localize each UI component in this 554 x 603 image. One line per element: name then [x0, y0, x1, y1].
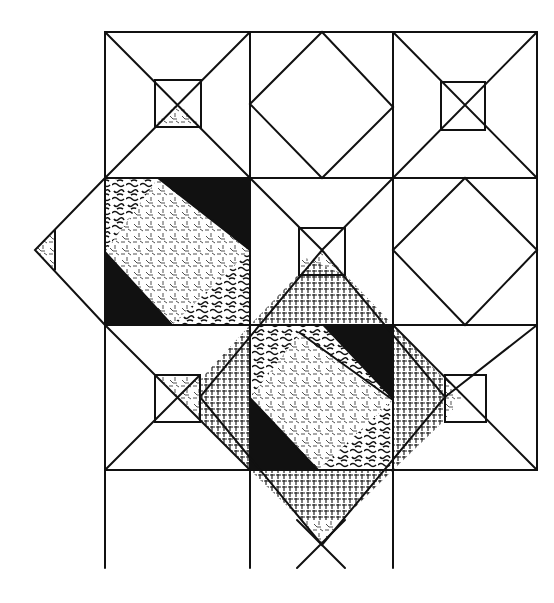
- quilt-pattern-diagram: [0, 0, 554, 603]
